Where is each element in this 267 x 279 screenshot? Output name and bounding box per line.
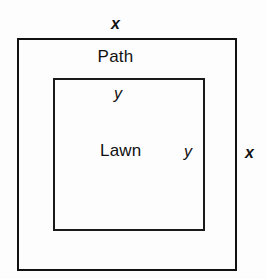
label-x-top: x xyxy=(0,16,249,32)
label-lawn-region: Lawn xyxy=(100,142,141,159)
label-path-region: Path xyxy=(0,48,249,65)
label-x-right: x xyxy=(245,145,254,161)
label-y-top: y xyxy=(114,86,122,102)
diagram-canvas: x x Path y Lawn y xyxy=(0,0,267,279)
label-y-right: y xyxy=(184,144,192,160)
